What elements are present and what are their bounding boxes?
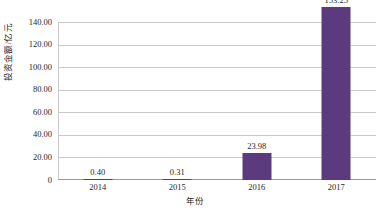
x-tick-label-2014: 2014: [89, 183, 106, 192]
bar-2014[interactable]: [83, 179, 112, 180]
plot-area: 0.40 0.31 23.98 153.25: [58, 22, 376, 180]
bar-value-label-2015: 0.31: [170, 168, 185, 177]
bar-value-label-2014: 0.40: [90, 168, 105, 177]
bar-2017[interactable]: [322, 7, 351, 180]
y-tick-label-100: 100.00: [29, 63, 52, 72]
bar-slot-2017: 153.25: [297, 22, 377, 180]
x-tick-label-2017: 2017: [328, 183, 345, 192]
y-tick-label-20: 20.00: [33, 153, 52, 162]
y-tick-label-0: 0: [48, 176, 52, 185]
y-tick-label-60: 60.00: [33, 108, 52, 117]
y-tick-label-80: 80.00: [33, 85, 52, 94]
y-axis-tick-labels: 140.00 120.00 100.00 80.00 60.00 40.00 2…: [0, 0, 56, 217]
bar-2015[interactable]: [163, 179, 192, 180]
y-tick-label-120: 120.00: [29, 40, 52, 49]
bar-chart: 投资金额/亿元 140.00 120.00 100.00 80.00 60.00…: [0, 0, 389, 217]
x-axis-tick-labels: 2014 2015 2016 2017: [58, 183, 376, 197]
x-axis-title: 年份: [0, 197, 389, 206]
bar-value-label-2017: 153.25: [325, 0, 348, 4]
bar-series: 0.40 0.31 23.98 153.25: [58, 22, 376, 180]
bar-2016[interactable]: [242, 153, 271, 180]
bar-slot-2016: 23.98: [217, 22, 297, 180]
x-tick-label-2015: 2015: [169, 183, 186, 192]
bar-value-label-2016: 23.98: [247, 142, 266, 151]
x-tick-label-2016: 2016: [248, 183, 265, 192]
bar-slot-2014: 0.40: [58, 22, 138, 180]
y-tick-label-40: 40.00: [33, 130, 52, 139]
y-tick-label-140: 140.00: [29, 18, 52, 27]
bar-slot-2015: 0.31: [138, 22, 218, 180]
